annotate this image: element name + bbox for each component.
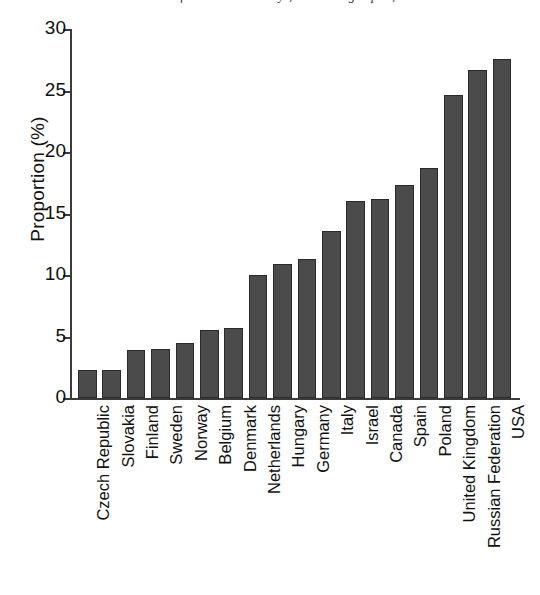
bar bbox=[493, 59, 512, 398]
x-tick-label: Belgium bbox=[216, 405, 234, 465]
bar bbox=[78, 370, 97, 398]
bar bbox=[224, 328, 243, 398]
y-axis-title: Proportion (%) bbox=[27, 79, 49, 279]
x-tick-label: Canada bbox=[387, 405, 405, 463]
x-tick-label: Czech Republic bbox=[94, 405, 112, 521]
bar bbox=[371, 199, 390, 398]
bar bbox=[249, 275, 268, 398]
y-tick-label: 25 bbox=[45, 80, 66, 100]
bar bbox=[346, 201, 365, 398]
x-tick-label: Netherlands bbox=[265, 405, 283, 494]
bar bbox=[322, 231, 341, 398]
bar bbox=[273, 264, 292, 398]
bar bbox=[395, 185, 414, 398]
y-tick-label: 20 bbox=[45, 141, 66, 161]
x-axis-tick-labels: Czech RepublicSlovakiaFinlandSwedenNorwa… bbox=[70, 405, 520, 595]
x-tick-label: Poland bbox=[436, 405, 454, 456]
y-tick-label: 30 bbox=[45, 18, 66, 38]
bar bbox=[102, 370, 121, 398]
bar bbox=[420, 168, 439, 398]
y-tick-label: 0 bbox=[55, 387, 66, 407]
x-tick-label: Spain bbox=[411, 405, 429, 447]
bar bbox=[468, 70, 487, 398]
bar bbox=[298, 259, 317, 398]
x-tick-label: Norway bbox=[192, 405, 210, 461]
x-tick-label: Finland bbox=[143, 405, 161, 459]
x-tick-label: USA bbox=[509, 405, 527, 439]
bar bbox=[444, 95, 463, 398]
bar bbox=[176, 343, 195, 398]
x-tick-label: Hungary bbox=[289, 405, 307, 467]
x-tick-label: United Kingdom bbox=[460, 405, 478, 522]
x-tick-label: Denmark bbox=[241, 405, 259, 472]
x-tick-label: Russian Federation bbox=[485, 405, 503, 548]
x-axis-line bbox=[70, 398, 520, 400]
x-tick-label: Italy bbox=[338, 405, 356, 435]
plot-area: 051015202530 bbox=[70, 29, 520, 400]
y-axis-line bbox=[70, 29, 72, 400]
x-tick-label: Israel bbox=[363, 405, 381, 445]
x-tick-label: Slovakia bbox=[119, 405, 137, 467]
x-tick-label: Germany bbox=[314, 405, 332, 473]
x-tick-label: Sweden bbox=[167, 405, 185, 465]
y-tick-label: 15 bbox=[45, 203, 66, 223]
figure-caption: Source: data from national surveys, Worl… bbox=[0, 0, 540, 3]
y-tick-label: 10 bbox=[45, 264, 66, 284]
bar bbox=[151, 349, 170, 398]
y-tick-label: 5 bbox=[55, 326, 66, 346]
bar-chart-figure: Source: data from national surveys, Worl… bbox=[0, 0, 540, 595]
bar bbox=[127, 350, 146, 398]
bar bbox=[200, 330, 219, 398]
